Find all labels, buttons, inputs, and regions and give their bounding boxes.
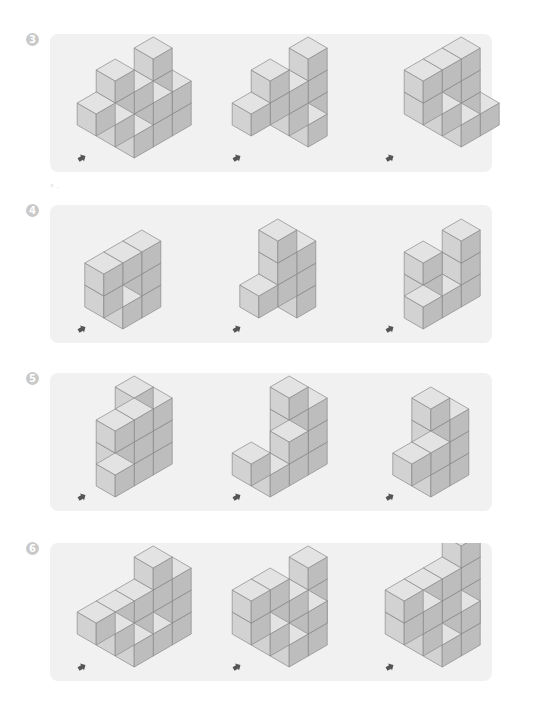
figure-panel bbox=[50, 34, 492, 172]
cube-figure-3-2 bbox=[215, 34, 355, 172]
cube-figure-6-3 bbox=[368, 543, 508, 681]
figure-panel bbox=[50, 543, 492, 681]
figure-panel bbox=[50, 373, 492, 511]
view-direction-arrow-icon bbox=[385, 153, 396, 164]
view-direction-arrow-icon bbox=[232, 662, 243, 673]
cube-figure-4-1 bbox=[60, 205, 200, 343]
isometric-cubes bbox=[215, 205, 355, 343]
cube-figure-5-1 bbox=[60, 373, 200, 511]
cube-figure-6-2 bbox=[215, 543, 355, 681]
isometric-cubes bbox=[368, 543, 508, 681]
isometric-cubes bbox=[368, 205, 508, 343]
view-direction-arrow-icon bbox=[385, 324, 396, 335]
cube-figure-6-1 bbox=[60, 543, 200, 681]
view-direction-arrow-icon bbox=[77, 153, 88, 164]
cube-figure-4-2 bbox=[215, 205, 355, 343]
view-direction-arrow-icon bbox=[77, 662, 88, 673]
view-direction-arrow-icon bbox=[232, 324, 243, 335]
problem-number-badge: 6 bbox=[26, 542, 39, 555]
view-direction-arrow-icon bbox=[232, 492, 243, 503]
view-direction-arrow-icon bbox=[77, 492, 88, 503]
isometric-cubes bbox=[60, 373, 200, 511]
isometric-cubes bbox=[215, 34, 355, 172]
figure-panel bbox=[50, 205, 492, 343]
stray-mark: ° · bbox=[50, 184, 59, 193]
view-direction-arrow-icon bbox=[385, 492, 396, 503]
problem-number-badge: 5 bbox=[26, 372, 39, 385]
problem-number-badge: 4 bbox=[26, 204, 39, 217]
view-direction-arrow-icon bbox=[232, 153, 243, 164]
isometric-cubes bbox=[60, 543, 200, 681]
cube-figure-3-3 bbox=[368, 34, 508, 172]
isometric-cubes bbox=[215, 373, 355, 511]
cube-figure-3-1 bbox=[60, 34, 200, 172]
isometric-cubes bbox=[60, 205, 200, 343]
view-direction-arrow-icon bbox=[77, 324, 88, 335]
isometric-cubes bbox=[368, 373, 508, 511]
cube-figure-4-3 bbox=[368, 205, 508, 343]
view-direction-arrow-icon bbox=[385, 662, 396, 673]
isometric-cubes bbox=[215, 543, 355, 681]
cube-figure-5-3 bbox=[368, 373, 508, 511]
isometric-cubes bbox=[368, 34, 508, 172]
problem-number-badge: 3 bbox=[26, 33, 39, 46]
cube-figure-5-2 bbox=[215, 373, 355, 511]
isometric-cubes bbox=[60, 34, 200, 172]
